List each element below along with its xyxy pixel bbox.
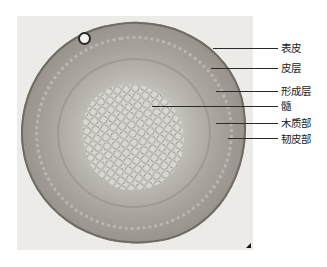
stem-cross-section-micrograph [17, 16, 253, 250]
leader-line-pith [152, 106, 278, 107]
leader-line-epidermis [213, 48, 278, 49]
label-phloem: 韧皮部 [281, 133, 311, 145]
leader-line-cambium [216, 91, 278, 92]
label-epidermis: 表皮 [281, 42, 301, 54]
stem-section [17, 16, 253, 250]
label-cambium: 形成层 [281, 85, 311, 97]
label-xylem: 木质部 [281, 117, 311, 129]
leader-line-xylem [216, 123, 278, 124]
label-pith: 髓 [281, 100, 291, 112]
label-cortex: 皮层 [281, 62, 301, 74]
corner-mark [246, 243, 251, 248]
leader-line-cortex [211, 68, 278, 69]
ring-artifact [78, 32, 91, 45]
leader-line-phloem [228, 138, 278, 139]
